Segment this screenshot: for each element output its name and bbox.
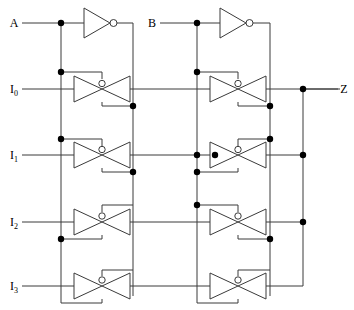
tgate-a-i3 [61,273,178,303]
junction-b-inverter [194,20,200,26]
junction-bbar-i0 [267,103,273,109]
wire-output-rail [303,89,338,286]
junction-b-i1 [194,169,200,175]
junction-abar-i1 [130,169,136,175]
label-input-3: I3 [10,279,18,295]
label-input-1: I1 [10,148,18,164]
junction-a-i0 [58,69,64,75]
junction-a-i2 [58,236,64,242]
junction-out-i0 [300,86,306,92]
wire-a-tap-i0 [61,72,102,79]
tgate-a-i2 [61,209,178,239]
wire-b-tap-i0 [197,72,238,79]
tgate-b-i0 [178,76,340,106]
label-input-2: I2 [10,215,18,231]
junction-bbar-i1-left [212,152,218,158]
tgate-a-i1 [72,142,178,172]
tgate-a-i0 [72,76,178,106]
junction-bbar-i2 [267,236,273,242]
junction-a-inverter [58,20,64,26]
junction-b-i2 [194,202,200,208]
junction-out-i2 [300,219,306,225]
label-select-a: A [10,16,19,30]
junction-b-i0 [194,69,200,75]
junction-abar-i0 [130,103,136,109]
junction-out-i1 [300,152,306,158]
inverter-a [84,8,133,38]
junction-b-i1-data [194,152,200,158]
schematic-canvas: A B I0 I1 I2 I3 Z [0,0,354,310]
wire-b-tap-i2 [197,205,238,212]
label-input-0: I0 [10,82,18,98]
junction-a-i1 [58,136,64,142]
junction-bbar-i1 [267,136,273,142]
label-output-z: Z [340,82,347,96]
label-select-b: B [148,16,156,30]
inverter-b [220,8,270,38]
junction-dots [58,20,306,242]
multiplexer-schematic: A B I0 I1 I2 I3 Z [0,0,354,310]
